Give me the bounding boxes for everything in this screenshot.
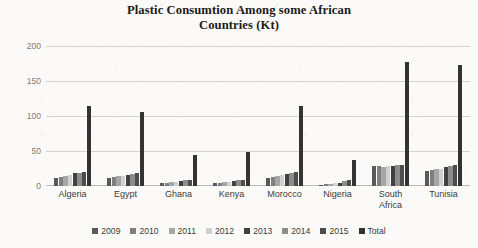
legend-item[interactable]: 2014 [282,226,310,236]
bar [169,182,173,186]
legend-swatch-icon [244,228,250,234]
bar [218,183,222,187]
bar-groups [46,46,470,186]
legend-label: 2014 [291,226,310,236]
x-axis-label-line: Nigeria [311,189,364,200]
bar-group [46,46,99,186]
x-axis-label-line: Egypt [99,189,152,200]
bar [453,165,457,186]
chart-title-line-2: Countries (Kt) [0,18,478,33]
chart-title: Plastic Consumtion Among some African Co… [0,3,478,33]
chart-legend: 2009201020112012201320142015Total [0,226,478,236]
bar [275,176,279,187]
bar [107,178,111,186]
bar [347,180,351,186]
legend-item[interactable]: 2013 [244,226,272,236]
bar [372,166,376,186]
bar [324,184,328,186]
x-axis-labels: AlgeriaEgyptGhanaKenyaMoroccoNigeriaSout… [46,189,470,211]
bar [179,181,183,186]
bar [54,178,58,186]
legend-swatch-icon [206,228,212,234]
x-axis-label-line: Kenya [205,189,258,200]
bar [333,183,337,186]
bar [246,152,250,186]
x-axis-label: Nigeria [311,189,364,211]
x-axis-label-line: Ghana [152,189,205,200]
legend-swatch-icon [130,228,136,234]
legend-swatch-icon [320,228,326,234]
legend-label: 2013 [253,226,272,236]
bar [227,182,231,186]
bar [241,180,245,186]
legend-item[interactable]: 2009 [92,226,120,236]
legend-label: 2009 [101,226,120,236]
bar [59,177,63,186]
bar [271,177,275,186]
x-axis-label-line: Algeria [46,189,99,200]
bar [338,183,342,187]
bar-group [99,46,152,186]
bar [391,166,395,186]
bar [381,167,385,186]
bar [126,175,130,186]
chart-container: Plastic Consumtion Among some African Co… [0,0,478,248]
bar [342,181,346,186]
bar [289,173,293,186]
bar [183,180,187,186]
bar [400,165,404,186]
bar [77,173,81,186]
bar [174,182,178,186]
bar [112,177,116,186]
bar [140,112,144,186]
bar [386,166,390,186]
x-axis-label: Algeria [46,189,99,211]
bar [188,180,192,186]
legend-swatch-icon [169,228,175,234]
legend-item[interactable]: 2015 [320,226,348,236]
legend-label: 2011 [178,226,196,236]
bar-group [364,46,417,186]
bar [73,173,77,186]
bar [458,65,462,186]
bar [135,173,139,186]
chart-title-line-1: Plastic Consumtion Among some African [0,3,478,18]
x-axis-label: Ghana [152,189,205,211]
bar [319,185,323,186]
legend-swatch-icon [359,228,365,234]
legend-label: 2012 [215,226,234,236]
legend-item[interactable]: Total [359,226,386,236]
bar [82,172,86,186]
bar [425,171,429,186]
x-axis-label-line: Tunisia [417,189,470,200]
bar [434,169,438,186]
bar [236,180,240,186]
bar [280,175,284,186]
bar-group [205,46,258,186]
bar [121,176,125,187]
bar [294,172,298,186]
bar [165,183,169,187]
bar-group [311,46,364,186]
legend-item[interactable]: 2011 [169,226,196,236]
x-axis-label-line: South [364,189,417,200]
bar-group [258,46,311,186]
bar [160,183,164,186]
legend-label: 2015 [329,226,348,236]
bar-group [152,46,205,186]
bar [87,106,91,187]
bar [116,176,120,186]
bar [213,183,217,186]
bar [285,174,289,186]
bar [377,166,381,186]
x-axis-label: Morocco [258,189,311,211]
bar-group [417,46,470,186]
x-axis-label-line: Africa [364,200,417,211]
bar [68,175,72,186]
legend-item[interactable]: 2012 [206,226,234,236]
legend-label: 2010 [139,226,158,236]
bar [444,167,448,186]
bar [130,174,134,186]
legend-item[interactable]: 2010 [130,226,158,236]
x-axis-label: Tunisia [417,189,470,211]
